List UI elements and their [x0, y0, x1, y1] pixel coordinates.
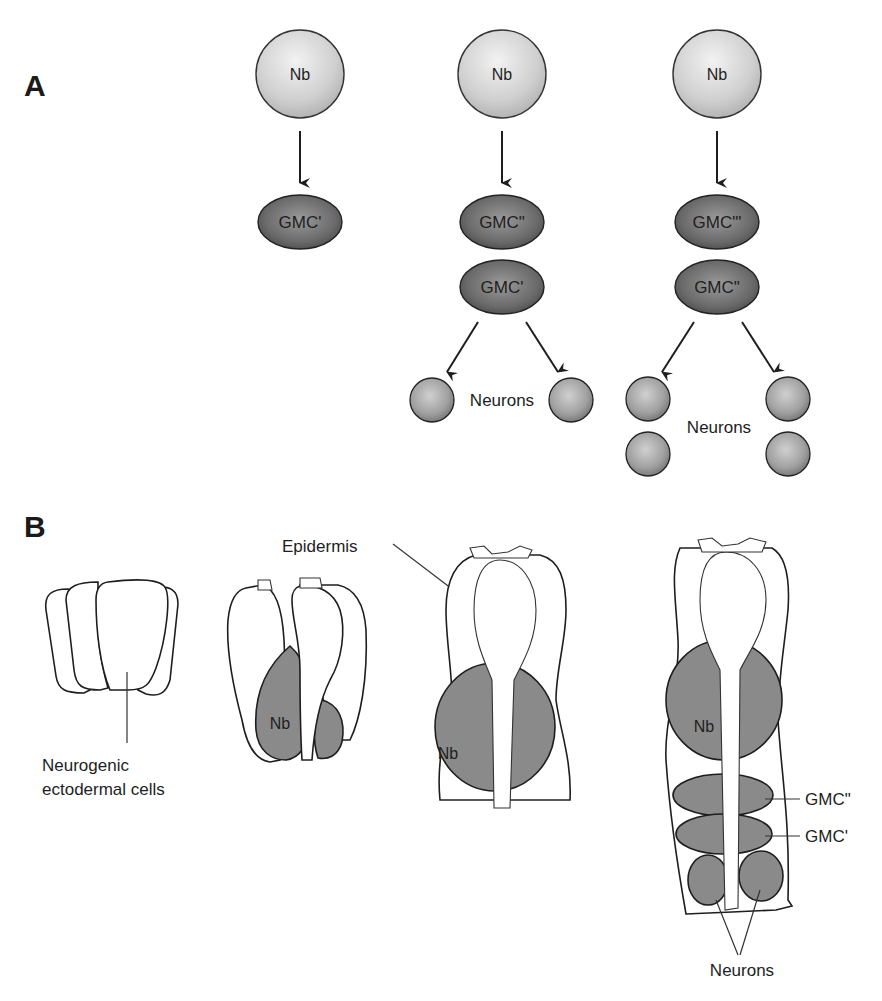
neuroblast-label: Nb — [707, 66, 728, 83]
lineage-column-2: Nb GMC" GMC' Neurons — [410, 30, 593, 422]
neuron — [766, 432, 810, 476]
neuron — [626, 377, 670, 421]
neuroblast: Nb — [256, 30, 344, 118]
ectoderm-label-line1: Neurogenic — [42, 756, 129, 775]
gmc: GMC" — [675, 260, 759, 314]
panel-b: B Neurogenic ectodermal cells Nb Epiderm… — [24, 510, 851, 980]
neurons-label: Neurons — [710, 961, 774, 980]
nb-label: Nb — [438, 745, 459, 762]
nb-label: Nb — [694, 718, 715, 735]
epidermis-label: Epidermis — [282, 537, 358, 556]
gmc: GMC' — [460, 260, 544, 314]
stage-4-nb-with-progeny: Nb GMC" GMC' Neurons — [666, 538, 851, 980]
gmc: GMC"' — [675, 195, 759, 249]
division-arrow-right — [526, 322, 558, 372]
neuroblast-label: Nb — [492, 66, 513, 83]
gmc-label: GMC" — [479, 213, 525, 232]
gmc-label: GMC' — [481, 278, 524, 297]
gmc-label: GMC" — [694, 278, 740, 297]
neuron-cell-right — [739, 851, 783, 901]
neuron-cell-left — [688, 855, 728, 905]
gmc: GMC" — [460, 195, 544, 249]
division-arrow-left — [662, 322, 694, 372]
neuron — [626, 432, 670, 476]
division-arrow-left — [447, 322, 478, 372]
neuroblast: Nb — [673, 30, 761, 118]
stage-2-delaminating-nb: Nb — [228, 578, 367, 762]
neuroblast-label: Nb — [290, 66, 311, 83]
panel-a-label: A — [24, 69, 46, 102]
epidermis-leader-line — [393, 544, 456, 592]
neuron — [766, 377, 810, 421]
gmc-lower-label: GMC' — [805, 827, 848, 846]
gmc: GMC' — [258, 195, 342, 249]
division-arrow-right — [742, 322, 774, 372]
neurons-label: Neurons — [470, 391, 534, 410]
stage-1-ectodermal-cells: Neurogenic ectodermal cells — [42, 580, 178, 799]
lineage-column-1: Nb GMC' — [256, 30, 344, 249]
neuron — [410, 378, 454, 422]
gmc-upper-label: GMC" — [805, 790, 851, 809]
gmc-label: GMC' — [279, 213, 322, 232]
nb-label: Nb — [270, 715, 291, 732]
lineage-column-3: Nb GMC"' GMC" Neurons — [626, 30, 810, 476]
neurons-label: Neurons — [687, 418, 751, 437]
panel-a: A Nb GMC' Nb GMC" — [24, 30, 810, 476]
gmc-label: GMC"' — [693, 213, 742, 232]
neuroblast: Nb — [458, 30, 546, 118]
panel-b-label: B — [24, 510, 46, 543]
neuroblast-lineage-diagram: A Nb GMC' Nb GMC" — [0, 0, 882, 1001]
ectoderm-label-line2: ectodermal cells — [42, 780, 165, 799]
neuron — [549, 378, 593, 422]
